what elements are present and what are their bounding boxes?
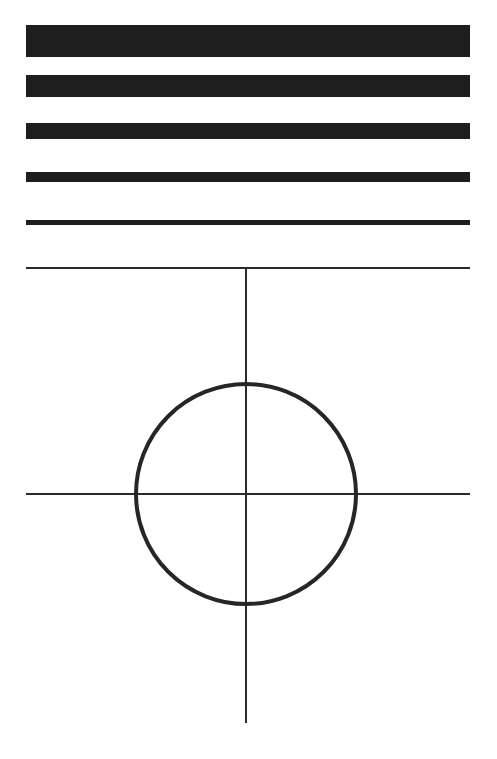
crosshair-circle-icon [0,0,497,759]
